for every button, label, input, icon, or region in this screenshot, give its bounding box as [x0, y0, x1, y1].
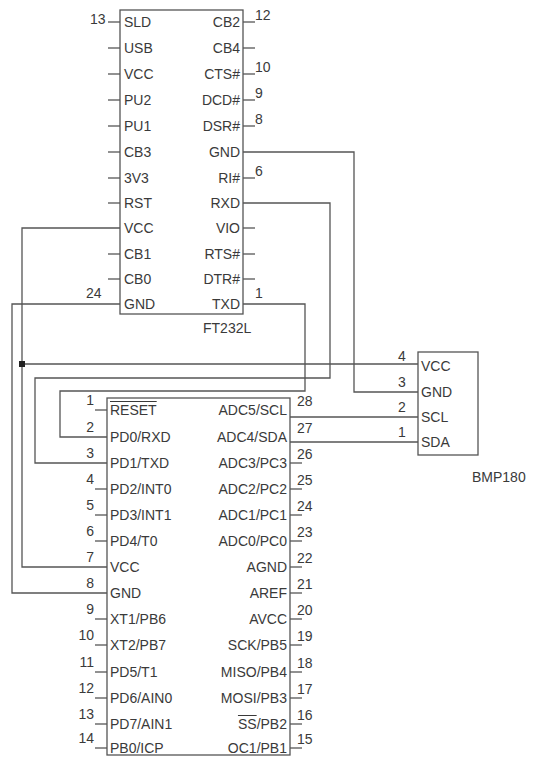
ss-overline-text: SS: [238, 716, 257, 732]
ft232l-pin-label: RTS#: [204, 246, 240, 262]
ft232l-pin-label: CB3: [124, 144, 151, 160]
bmp180-pin-label: GND: [421, 384, 452, 400]
ft232l-pin-label: SLD: [124, 14, 151, 30]
atmega-pin-number: 8: [86, 576, 94, 590]
ft232l-pin-label: CB2: [213, 14, 240, 30]
atmega-pin-number: 20: [297, 603, 313, 617]
atmega-pin-label: PB0/ICP: [110, 740, 164, 756]
atmega-pin-number: 1: [86, 393, 94, 407]
atmega-pin-label: ADC5/SCL: [219, 402, 287, 418]
bmp180-pin-number: 1: [398, 425, 406, 439]
wire-vcc: [22, 228, 120, 567]
atmega-pin-label: PD1/TXD: [110, 455, 169, 471]
atmega-pin-number: 18: [297, 656, 313, 670]
atmega-pin-number: 4: [86, 472, 94, 486]
atmega-pin-number: 3: [86, 446, 94, 460]
ft232l-pin-number: 6: [255, 164, 263, 178]
atmega-pin-label: OC1/PB1: [228, 740, 287, 756]
atmega-pin-number: 27: [297, 421, 313, 435]
pb2-text: /PB2: [257, 716, 287, 732]
ft232l-pin-label: 3V3: [124, 170, 149, 186]
atmega-pin-label: ADC4/SDA: [217, 429, 287, 445]
ft232l-pin-label: GND: [124, 296, 155, 312]
atmega-pin-label: XT1/PB6: [110, 611, 166, 627]
wire-ft-rxd: [35, 203, 330, 463]
atmega-pin-label: PD5/T1: [110, 664, 157, 680]
atmega-pin-label: ADC0/PC0: [219, 533, 287, 549]
atmega-pin-number: 10: [78, 628, 94, 642]
ft232l-pin-label: VCC: [124, 220, 154, 236]
atmega-pin-number: 5: [86, 498, 94, 512]
ft232l-pin-label: CB4: [213, 40, 240, 56]
atmega-pin-number: 24: [297, 499, 313, 513]
bmp180-pin-label: SDA: [421, 434, 450, 450]
atmega-pin-label: PD0/RXD: [110, 429, 171, 445]
atmega-pin-label: SS/PB2: [238, 716, 287, 732]
ft232l-pin-number: 13: [90, 12, 106, 26]
ft232l-pin-label: VCC: [124, 66, 154, 82]
atmega-pin-label: MOSI/PB3: [221, 690, 287, 706]
ft232l-pin-label: CTS#: [204, 66, 240, 82]
ft232l-pin-label: PU2: [124, 92, 151, 108]
atmega-pin-number: 6: [86, 524, 94, 538]
atmega-pin-label: ADC3/PC3: [219, 455, 287, 471]
ft232l-pin-label: RI#: [218, 170, 240, 186]
ft232l-pin-label: DSR#: [203, 118, 240, 134]
junction-dot: [19, 361, 25, 367]
atmega-pin-number: 25: [297, 473, 313, 487]
bmp180-pin-number: 2: [398, 400, 406, 414]
atmega-pin-label: ADC2/PC2: [219, 481, 287, 497]
ft232l-pin-number: 1: [255, 286, 263, 300]
ft232l-pin-label: RXD: [210, 195, 240, 211]
atmega-pin-label: ADC1/PC1: [219, 507, 287, 523]
atmega-pin-number: 23: [297, 525, 313, 539]
atmega-pin-number: 19: [297, 629, 313, 643]
ft232l-pin-number: 24: [86, 286, 102, 300]
atmega-pin-label: GND: [110, 585, 141, 601]
atmega-pin-number: 11: [79, 655, 94, 669]
wire-gnd: [12, 304, 120, 593]
ft232l-pin-label: VIO: [216, 220, 240, 236]
atmega-pin-label: SCK/PB5: [228, 637, 287, 653]
bmp180-name: BMP180: [472, 469, 526, 485]
ft232l-name: FT232L: [203, 320, 251, 336]
atmega-pin-number: 16: [297, 708, 313, 722]
atmega-pin-label: PD7/AIN1: [110, 716, 172, 732]
ft232l-pin-label: RST: [124, 195, 152, 211]
atmega-pin-label: PD4/T0: [110, 533, 157, 549]
atmega-pin-number: 26: [297, 447, 313, 461]
ft232l-pin-label: DTR#: [203, 271, 240, 287]
atmega-pin-label: RESET: [110, 402, 157, 418]
atmega-pin-number: 12: [78, 681, 94, 695]
ft232l-pin-number: 10: [255, 60, 271, 74]
atmega-pin-label: PD6/AIN0: [110, 690, 172, 706]
atmega-pin-label: AREF: [250, 585, 287, 601]
ft232l-pin-label: GND: [209, 144, 240, 160]
atmega-pin-label: MISO/PB4: [221, 664, 287, 680]
atmega-pin-label: PD3/INT1: [110, 507, 171, 523]
ft232l-pin-label: PU1: [124, 118, 151, 134]
ft232l-pin-label: USB: [124, 40, 153, 56]
atmega-pin-label: AGND: [247, 559, 287, 575]
atmega-pin-number: 2: [86, 420, 94, 434]
ft232l-pin-label: CB0: [124, 271, 151, 287]
atmega-pin-number: 13: [78, 707, 94, 721]
atmega-pin-number: 22: [297, 551, 313, 565]
atmega-pin-label: XT2/PB7: [110, 637, 166, 653]
ft232l-pin-number: 9: [255, 86, 263, 100]
ft232l-pin-number: 8: [255, 112, 263, 126]
ft232l-pin-label: CB1: [124, 246, 151, 262]
atmega-pin-number: 9: [86, 602, 94, 616]
bmp180-pin-number: 4: [398, 349, 406, 363]
bmp180-pin-number: 3: [398, 375, 406, 389]
ft232l-pin-label: TXD: [212, 296, 240, 312]
atmega-pin-number: 7: [86, 550, 94, 564]
bmp180-pin-label: SCL: [421, 409, 448, 425]
atmega-pin-label: PD2/INT0: [110, 481, 171, 497]
atmega-pin-label: AVCC: [249, 611, 287, 627]
ft232l-pin-label: DCD#: [202, 92, 240, 108]
atmega-pin-number: 21: [297, 577, 313, 591]
atmega-pin-number: 17: [297, 682, 313, 696]
ft232l-pin-number: 12: [255, 8, 271, 22]
bmp180-pin-label: VCC: [421, 358, 451, 374]
